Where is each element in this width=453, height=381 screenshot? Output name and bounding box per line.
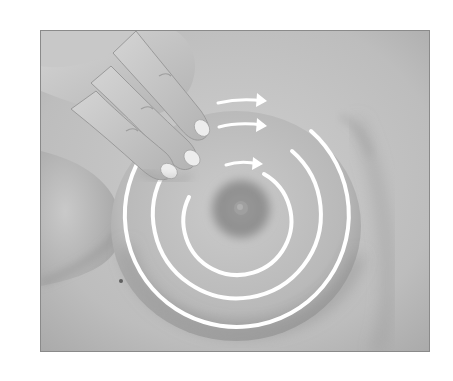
- figure-alt-text: Three fingers pressing on the breast wit…: [0, 0, 1, 1]
- breast-exam-illustration: [41, 31, 430, 352]
- figure-canvas: Three fingers pressing on the breast wit…: [0, 0, 453, 381]
- photo-frame: [40, 30, 430, 352]
- areola: [211, 179, 271, 239]
- skin-mark: [119, 279, 123, 283]
